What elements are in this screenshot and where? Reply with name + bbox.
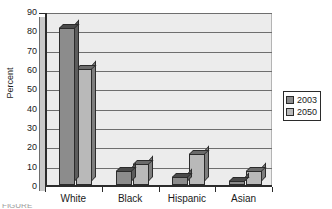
gridline — [47, 32, 272, 33]
figure-caption-cutoff: FIGURE — [0, 204, 332, 209]
bar-front-face — [172, 177, 188, 185]
legend-swatch-icon-2003 — [286, 96, 294, 104]
y-axis-tick-label: 0 — [9, 182, 37, 191]
gridline — [47, 13, 272, 14]
x-axis-tick — [45, 187, 46, 192]
legend: 2003 2050 — [283, 91, 321, 121]
bar-side-face — [75, 20, 79, 181]
y-axis-tick-label: 40 — [9, 105, 37, 114]
bar-asian-2003 — [229, 181, 245, 185]
x-axis-tick — [102, 187, 103, 192]
legend-label-2050: 2050 — [297, 107, 317, 117]
legend-swatch-icon-2050 — [286, 108, 294, 116]
gridline — [47, 52, 272, 53]
bar-hispanic-2003 — [172, 177, 188, 185]
legend-item-2050: 2050 — [286, 106, 317, 118]
bar-black-2003 — [116, 171, 132, 185]
bar-front-face — [116, 171, 132, 185]
plot-right-edge — [271, 13, 272, 185]
y-axis-tick-label: 80 — [9, 27, 37, 36]
x-axis-tick — [159, 187, 160, 192]
x-axis-tick — [215, 187, 216, 192]
bar-white-2003 — [59, 28, 75, 185]
legend-item-2003: 2003 — [286, 94, 317, 106]
y-axis-tick-label: 50 — [9, 85, 37, 94]
x-axis-tick — [272, 187, 273, 192]
figure-caption-text: FIGURE — [2, 204, 32, 209]
bar-side-face — [92, 61, 96, 181]
y-axis-tick-label: 10 — [9, 163, 37, 172]
y-axis-tick-label: 20 — [9, 143, 37, 152]
plot-area — [45, 13, 272, 187]
y-axis-tick-label: 90 — [9, 8, 37, 17]
bar-chart: Percent 0102030405060708090 WhiteBlackHi… — [0, 0, 332, 209]
y-axis-tick-label: 30 — [9, 124, 37, 133]
legend-label-2003: 2003 — [297, 95, 317, 105]
bar-front-face — [229, 181, 245, 185]
bar-side-face — [262, 163, 266, 181]
bar-front-face — [59, 28, 75, 185]
y-axis-tick-label: 60 — [9, 66, 37, 75]
y-axis-tick-label: 70 — [9, 47, 37, 56]
